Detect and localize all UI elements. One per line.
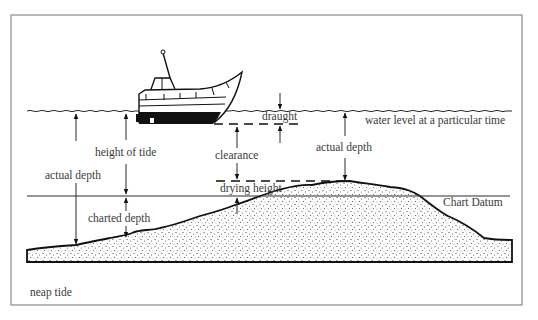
label-water-level: water level at a particular time xyxy=(365,114,505,127)
figure-caption: neap tide xyxy=(30,286,72,299)
label-draught: draught xyxy=(262,110,298,123)
label-actual-depth-right: actual depth xyxy=(316,141,372,154)
label-actual-depth-left: actual depth xyxy=(45,169,101,182)
label-chart-datum: Chart Datum xyxy=(443,196,503,208)
tide-depth-diagram: draught water level at a particular time… xyxy=(0,0,538,320)
label-height-of-tide: height of tide xyxy=(95,146,156,159)
label-charted-depth: charted depth xyxy=(88,212,151,225)
boat-icon xyxy=(136,50,242,124)
label-drying-height: drying height xyxy=(220,182,282,195)
label-clearance: clearance xyxy=(215,149,258,161)
